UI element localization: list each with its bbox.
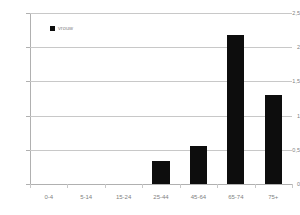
x-tick-label: 75+: [255, 193, 292, 201]
x-tick-mark: [67, 184, 68, 188]
gridline: [30, 47, 292, 48]
bar: [265, 95, 282, 184]
legend-swatch-vrouw: [50, 26, 55, 31]
gridline: [30, 13, 292, 14]
bar: [227, 35, 244, 184]
x-tick-label: 65-74: [217, 193, 254, 201]
legend: vrouw: [50, 25, 73, 31]
gridline: [30, 81, 292, 82]
x-tick-mark: [105, 184, 106, 188]
x-tick-mark: [217, 184, 218, 188]
x-tick-label: 15-24: [105, 193, 142, 201]
x-tick-mark: [255, 184, 256, 188]
x-tick-mark: [180, 184, 181, 188]
x-tick-label: 0-4: [30, 193, 67, 201]
x-tick-label: 45-64: [180, 193, 217, 201]
plot-area: [30, 13, 292, 184]
x-axis-line: [30, 184, 292, 185]
legend-label-vrouw: vrouw: [58, 25, 73, 31]
x-tick-label: 25-44: [142, 193, 179, 201]
x-tick-mark: [30, 184, 31, 188]
bar: [152, 161, 169, 184]
bar-chart: 00,511,522,5 0-45-1415-2425-4445-6465-74…: [0, 0, 300, 215]
x-tick-mark: [292, 184, 293, 188]
x-tick-mark: [142, 184, 143, 188]
bar: [190, 146, 207, 184]
x-tick-label: 5-14: [67, 193, 104, 201]
gridline: [30, 116, 292, 117]
gridline: [30, 150, 292, 151]
